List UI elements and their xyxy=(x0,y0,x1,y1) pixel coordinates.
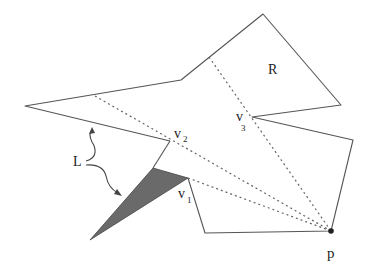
label-l: L xyxy=(73,154,82,169)
dashed-line-through-v3 xyxy=(209,57,331,231)
label-v3: v xyxy=(236,109,243,124)
label-r: R xyxy=(268,62,278,77)
label-v2-subscript: 2 xyxy=(183,134,188,144)
point-p-marker xyxy=(328,228,334,234)
l-pointer-curve-lower xyxy=(86,165,118,193)
l-pointer-arrowhead-upper xyxy=(89,127,95,134)
label-v1-subscript: 1 xyxy=(187,195,192,205)
label-v2: v xyxy=(174,126,181,141)
visibility-polygon-diagram: R v 2 v 3 v 1 L p xyxy=(0,0,374,272)
shaded-region xyxy=(90,168,188,240)
label-v1: v xyxy=(178,186,185,201)
l-pointer-arrowhead-lower xyxy=(114,189,122,196)
label-p: p xyxy=(327,245,335,261)
edge-v2-to-pocket xyxy=(153,141,170,168)
dashed-line-through-v1 xyxy=(188,178,331,231)
l-pointer-curve-upper xyxy=(86,130,95,161)
label-v3-subscript: 3 xyxy=(241,123,246,133)
